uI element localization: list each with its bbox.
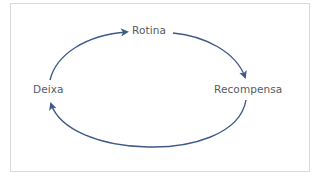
node-rotina-label: Rotina <box>132 24 166 36</box>
node-deixa-label: Deixa <box>33 83 64 95</box>
arrow-deixa-to-rotina <box>50 32 127 80</box>
arrow-rotina-to-recompensa <box>173 33 245 77</box>
node-recompensa-label: Recompensa <box>214 83 282 95</box>
arrow-recompensa-to-deixa <box>51 100 246 147</box>
